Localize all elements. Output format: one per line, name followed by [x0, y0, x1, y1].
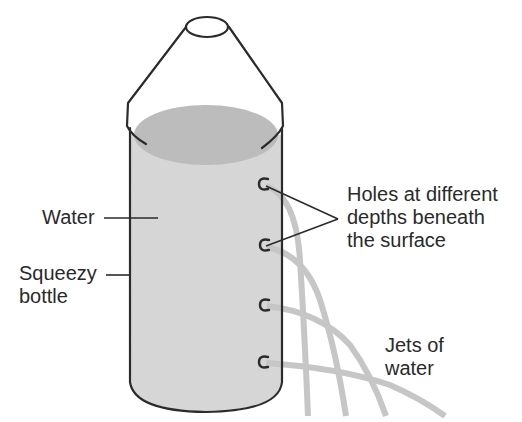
holes-label-line2: depths beneath	[347, 206, 498, 229]
jets-label-line1: Jets of	[385, 334, 444, 357]
water-body	[131, 135, 281, 411]
jets-label-line2: water	[385, 357, 444, 380]
squeezy-bottle-label: Squeezy bottle	[19, 262, 97, 308]
holes-label-line3: the surface	[347, 229, 498, 252]
squeezy-bottle-label-line1: Squeezy	[19, 262, 97, 285]
water-label: Water	[42, 206, 95, 229]
jet-3	[267, 306, 386, 416]
bottle-cap-opening	[186, 17, 228, 37]
holes-label: Holes at different depths beneath the su…	[347, 183, 498, 252]
squeezy-bottle-label-line2: bottle	[19, 285, 97, 308]
jets-label: Jets of water	[385, 334, 444, 380]
water-surface	[134, 105, 278, 165]
holes-label-line1: Holes at different	[347, 183, 498, 206]
